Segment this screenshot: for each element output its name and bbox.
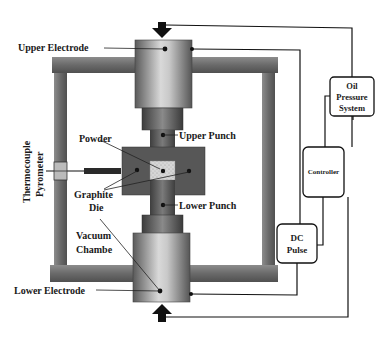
pyrometer-label: Pyrometer — [34, 151, 45, 197]
arrow-up-icon — [152, 304, 172, 322]
oil-pressure-line2: Pressure — [336, 92, 368, 102]
frame-right-post — [262, 73, 275, 265]
vacuum-chamber-label-line1: Vacuum — [76, 230, 112, 241]
graphite-die-label-line1: Graphite — [74, 189, 113, 200]
arrow-down-icon — [152, 22, 172, 38]
lower-electrode-label: Lower Electrode — [14, 285, 86, 296]
thermocouple-sensor — [46, 162, 121, 180]
lower-punch — [150, 180, 175, 215]
controller-label: Controller — [308, 168, 339, 176]
sps-diagram: Oil Pressure System Controller DC Pulse … — [0, 0, 390, 339]
powder-label: Powder — [79, 133, 112, 144]
upper-punch-label: Upper Punch — [179, 130, 236, 141]
oil-pressure-line1: Oil — [346, 81, 358, 91]
pyrometer-probe — [84, 168, 121, 174]
dc-pulse-line2: Pulse — [287, 245, 308, 255]
lower-punch-label: Lower Punch — [179, 200, 237, 211]
thermocouple-label: Thermocouple — [21, 140, 32, 203]
dc-pulse-line1: DC — [291, 233, 304, 243]
lower-punch-collar — [142, 215, 183, 235]
controller-box: Controller — [303, 147, 344, 197]
dc-pulse-box: DC Pulse — [277, 224, 317, 263]
oil-pressure-system-box: Oil Pressure System — [330, 77, 374, 116]
graphite-die-label-line2: Die — [89, 202, 104, 213]
oil-pressure-line3: System — [339, 103, 365, 113]
vacuum-chamber-label-line2: Chambe — [76, 244, 113, 255]
upper-electrode-label: Upper Electrode — [18, 42, 89, 53]
upper-punch-collar — [142, 108, 183, 130]
